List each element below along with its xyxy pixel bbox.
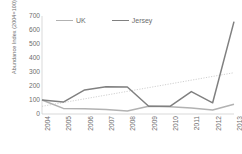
x-axis-tick: 2005: [66, 116, 73, 131]
plot-area: [42, 16, 234, 114]
legend-swatch-icon: [56, 20, 73, 22]
legend-label: UK: [76, 17, 86, 24]
trendline: [42, 73, 234, 107]
legend-item[interactable]: UK: [56, 17, 86, 24]
abundance-index-line-chart: Abundance Index (2004=100) 7006005004003…: [0, 0, 242, 154]
plot-svg: [42, 16, 234, 114]
x-axis-tick: 2004: [45, 116, 52, 131]
y-axis-title: Abundance Index (2004=100): [11, 0, 17, 87]
x-axis-tick: 2011: [194, 116, 201, 130]
y-axis-tick: 700: [29, 13, 40, 20]
x-axis-tick: 2006: [88, 116, 95, 131]
y-axis-tick-labels: 7006005004003002001000: [18, 16, 40, 114]
x-axis-tick-labels: 2004200520062007200820092010201120122013: [42, 116, 234, 152]
x-axis-tick: 2010: [173, 116, 180, 131]
legend-swatch-icon: [112, 20, 129, 22]
x-axis-tick: 2013: [237, 116, 242, 131]
x-axis-tick: 2007: [109, 116, 116, 131]
x-axis-tick: 2008: [130, 116, 137, 131]
y-axis-tick: 100: [29, 97, 40, 104]
y-axis-tick: 200: [29, 83, 40, 90]
y-axis-tick: 500: [29, 41, 40, 48]
y-axis-tick: 400: [29, 55, 40, 62]
x-axis-tick: 2012: [216, 116, 223, 131]
y-axis-tick: 600: [29, 27, 40, 34]
x-axis-tick: 2009: [152, 116, 159, 131]
y-axis-tick: 300: [29, 69, 40, 76]
chart-legend: UKJersey: [56, 17, 152, 24]
legend-item[interactable]: Jersey: [112, 17, 153, 24]
legend-label: Jersey: [132, 17, 153, 24]
series-line-jersey: [42, 22, 234, 107]
y-axis-tick: 0: [36, 111, 40, 118]
